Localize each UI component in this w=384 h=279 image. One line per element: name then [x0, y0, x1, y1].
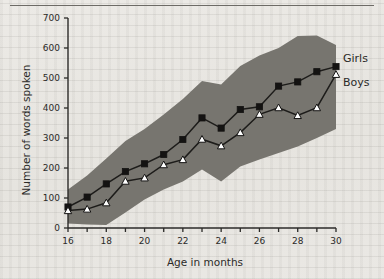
y-tick-label: 600 — [43, 43, 60, 53]
data-point-girls — [141, 161, 147, 167]
y-axis-tick-labels: 0100200300400500600700 — [43, 13, 60, 233]
data-point-girls — [84, 194, 90, 200]
data-point-girls — [122, 169, 128, 175]
series-label-boys: Boys — [343, 76, 370, 89]
y-tick-label: 700 — [43, 13, 60, 23]
y-tick-label: 0 — [54, 223, 60, 233]
x-tick-label: 20 — [139, 236, 151, 246]
y-tick-label: 400 — [43, 103, 60, 113]
y-tick-label: 300 — [43, 133, 60, 143]
y-tick-label: 500 — [43, 73, 60, 83]
x-tick-label: 30 — [330, 236, 342, 246]
y-tick-label: 100 — [43, 193, 60, 203]
x-tick-label: 26 — [254, 236, 266, 246]
vocabulary-growth-chart: 0100200300400500600700 1618202224262830 … — [0, 0, 384, 279]
data-point-girls — [275, 83, 281, 89]
data-point-girls — [161, 151, 167, 157]
chart-canvas: 0100200300400500600700 1618202224262830 … — [0, 0, 384, 279]
series-label-girls: Girls — [343, 52, 368, 65]
data-point-girls — [333, 64, 339, 70]
data-point-girls — [295, 79, 301, 85]
data-point-girls — [237, 106, 243, 112]
data-point-girls — [180, 136, 186, 142]
range-band-area — [68, 35, 336, 225]
x-tick-label: 18 — [101, 236, 113, 246]
y-tick-label: 200 — [43, 163, 60, 173]
range-band — [68, 35, 336, 225]
x-axis-tick-labels: 1618202224262830 — [62, 236, 342, 246]
data-point-girls — [314, 69, 320, 75]
data-point-girls — [199, 115, 205, 121]
x-axis-title: Age in months — [167, 256, 243, 268]
data-point-girls — [218, 125, 224, 131]
x-tick-label: 24 — [215, 236, 227, 246]
x-tick-label: 28 — [292, 236, 304, 246]
data-point-girls — [103, 181, 109, 187]
x-tick-label: 22 — [177, 236, 188, 246]
data-point-girls — [256, 104, 262, 110]
y-axis-title: Number of words spoken — [20, 65, 32, 196]
x-tick-label: 16 — [62, 236, 74, 246]
